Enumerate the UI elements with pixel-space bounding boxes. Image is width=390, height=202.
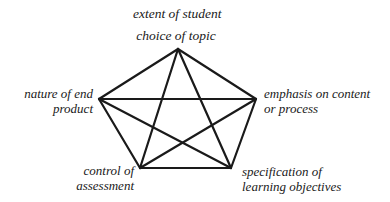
- label-line: learning objectives: [242, 179, 341, 194]
- edge-top-left: [99, 49, 178, 99]
- edge-right-bottom-right: [231, 99, 256, 168]
- node-label-control-of-assessment: control of assessment: [30, 163, 134, 193]
- node-label-learning-objectives: specification of learning objectives: [242, 164, 341, 194]
- label-line: emphasis on content: [264, 86, 370, 101]
- node-label-end-product: nature of end product: [0, 86, 93, 116]
- label-line: control of: [30, 163, 134, 178]
- edge-top-bottom-left: [140, 49, 178, 168]
- node-label-student-choice: extent of student choice of topic: [133, 3, 219, 47]
- label-line: extent of student: [133, 3, 219, 25]
- edge-right-bottom-left: [140, 99, 256, 168]
- label-line: assessment: [30, 178, 134, 193]
- label-line: specification of: [242, 164, 341, 179]
- label-line: product: [0, 101, 93, 116]
- label-line: choice of topic: [133, 25, 219, 47]
- label-line: or process: [264, 101, 370, 116]
- node-label-content-or-process: emphasis on content or process: [264, 86, 370, 116]
- label-line: nature of end: [0, 86, 93, 101]
